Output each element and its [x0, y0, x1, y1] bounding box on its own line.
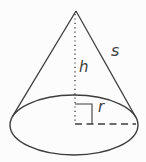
radius-label: r: [98, 100, 104, 115]
height-label: h: [79, 60, 89, 75]
cone-left-slant-edge: [12, 11, 76, 117]
cone-diagram: s h r: [0, 0, 146, 162]
cone-figure-canvas: [0, 0, 146, 162]
cone-base-ellipse: [10, 95, 138, 155]
slant-height-label: s: [111, 43, 119, 59]
right-angle-marker: [75, 104, 92, 124]
